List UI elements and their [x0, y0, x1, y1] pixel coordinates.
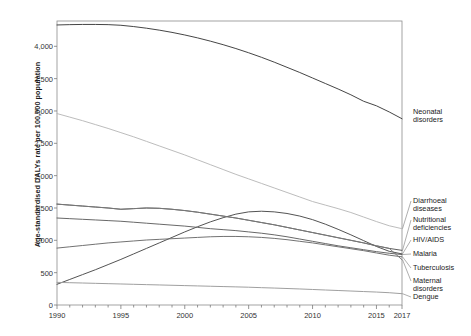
legend-label-hiv-aids: HIV/AIDS — [413, 236, 444, 244]
series-line-diarrhoeal-diseases — [57, 114, 402, 229]
legend-label-line1: HIV/AIDS — [413, 236, 444, 244]
line-chart: Age-standardised DALYs rate per 100,000 … — [0, 0, 471, 336]
legend-leader-line — [403, 294, 412, 297]
legend-label-nutritional-deficiencies: Nutritionaldeficiencies — [413, 216, 451, 233]
legend-label-line2: deficiencies — [413, 224, 451, 232]
axes-frame — [57, 21, 402, 305]
series-line-dengue — [57, 282, 402, 293]
legend-leader-lines — [403, 201, 412, 297]
legend-label-line1: Dengue — [413, 293, 439, 301]
series-line-nutritional-deficiencies — [57, 204, 402, 250]
legend-label-neonatal-disorders: Neonataldisorders — [413, 108, 443, 125]
legend-label-line2: diseases — [413, 205, 447, 213]
x-axis-ticks — [57, 305, 402, 309]
legend-label-line2: disorders — [413, 116, 443, 124]
x-tick-label: 2015 — [368, 311, 385, 320]
legend-leader-line — [403, 254, 412, 255]
legend-label-line1: Tuberculosis — [413, 264, 454, 272]
x-tick-label: 2017 — [394, 311, 411, 320]
legend-label-malaria: Malaria — [413, 250, 437, 258]
x-tick-label: 2010 — [304, 311, 321, 320]
legend-label-dengue: Dengue — [413, 293, 439, 301]
data-series-group — [57, 24, 402, 293]
series-line-neonatal-disorders — [57, 24, 402, 118]
legend-label-line1: Malaria — [413, 250, 437, 258]
x-tick-label: 1990 — [49, 311, 66, 320]
y-axis-ticks — [54, 46, 57, 305]
series-line-tuberculosis — [57, 236, 402, 256]
x-tick-label: 1995 — [113, 311, 130, 320]
x-tick-label: 2005 — [240, 311, 257, 320]
x-tick-label: 2000 — [176, 311, 193, 320]
legend-label-diarrhoeal-diseases: Diarrhoealdiseases — [413, 197, 447, 214]
legend-label-tuberculosis: Tuberculosis — [413, 264, 454, 272]
plot-area — [0, 0, 471, 336]
